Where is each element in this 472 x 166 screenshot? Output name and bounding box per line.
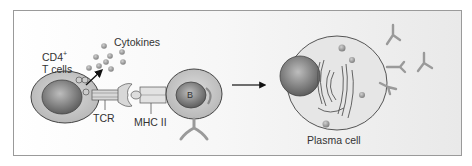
mhc-label: MHC II [134,116,167,128]
b-cell-label: B [187,89,193,101]
plasma-cell-label: Plasma cell [307,134,361,146]
plasma-cell [280,36,387,130]
t-cell [31,71,99,123]
mhc-ii [131,87,166,114]
tcr-receptor [92,84,132,111]
b-cell [166,69,222,139]
t-cell-label-text: CD4 [42,51,63,63]
antibodies [380,25,432,94]
cytokines-label: Cytokines [114,36,160,48]
diagram-canvas [0,0,472,166]
tcr-label: TCR [93,112,115,124]
t-cell-label-superscript: + [63,50,67,57]
t-cell-label: CD4+ T cells [42,48,72,75]
t-cell-label-line2: T cells [42,63,72,75]
cytokines [86,43,126,85]
